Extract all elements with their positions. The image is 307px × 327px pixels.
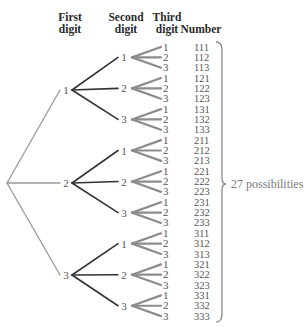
number-313: 313 <box>194 249 210 260</box>
brace: 27 possibilities <box>216 42 304 322</box>
branch-root-1 <box>7 90 60 183</box>
number-212: 212 <box>194 145 210 156</box>
number-311: 311 <box>194 228 209 239</box>
branch-13-1 <box>132 109 161 119</box>
branch-21-3 <box>132 151 161 161</box>
second-digit-21: 1 <box>121 145 127 157</box>
number-column: 1111121131211221231311321332112122132212… <box>194 42 210 322</box>
number-233: 233 <box>194 217 210 228</box>
branch-31-3 <box>132 244 161 254</box>
number-133: 133 <box>194 124 210 135</box>
number-221: 221 <box>194 166 210 177</box>
number-331: 331 <box>194 290 210 301</box>
branch-32-1 <box>132 264 161 274</box>
number-122: 122 <box>194 83 210 94</box>
branch-32-3 <box>132 275 161 285</box>
number-321: 321 <box>194 259 210 270</box>
branch-33-1 <box>132 295 161 305</box>
branch-12-3 <box>132 88 161 98</box>
branch-3-1 <box>72 244 118 275</box>
branch-11-3 <box>132 57 161 67</box>
number-323: 323 <box>194 280 210 291</box>
branch-2-3 <box>72 183 118 213</box>
summary-label: 27 possibilities <box>231 177 304 191</box>
level1-branches <box>7 90 60 275</box>
branch-23-1 <box>132 202 161 212</box>
right-brace <box>216 42 226 322</box>
second-digit-32: 2 <box>121 269 127 281</box>
number-121: 121 <box>194 73 210 84</box>
number-332: 332 <box>194 300 210 311</box>
number-222: 222 <box>194 176 210 187</box>
branch-22-1 <box>132 171 161 181</box>
number-112: 112 <box>194 52 209 63</box>
first-digit-2: 2 <box>63 177 69 189</box>
second-digit-11: 1 <box>121 51 127 63</box>
branch-12-1 <box>132 78 161 88</box>
number-123: 123 <box>194 93 210 104</box>
first-digit-1: 1 <box>63 84 69 96</box>
branch-11-1 <box>132 47 161 57</box>
number-231: 231 <box>194 197 210 208</box>
number-131: 131 <box>194 104 210 115</box>
branch-13-3 <box>132 119 161 129</box>
branch-root-3 <box>7 183 60 275</box>
second-digit-12: 2 <box>121 82 127 94</box>
branch-2-2 <box>72 182 118 183</box>
branch-22-3 <box>132 182 161 192</box>
third-digit-333: 3 <box>163 310 169 322</box>
second-digit-31: 1 <box>121 238 127 250</box>
number-211: 211 <box>194 135 209 146</box>
number-232: 232 <box>194 207 210 218</box>
number-111: 111 <box>194 42 209 53</box>
branch-1-1 <box>72 57 118 90</box>
branch-33-3 <box>132 306 161 316</box>
level3-branches <box>132 47 161 316</box>
first-digit-3: 3 <box>63 269 69 281</box>
number-322: 322 <box>194 269 210 280</box>
number-113: 113 <box>194 62 209 73</box>
number-333: 333 <box>194 311 210 322</box>
second-digit-13: 3 <box>121 113 127 125</box>
branch-3-3 <box>72 275 118 306</box>
second-digit-22: 2 <box>121 176 127 188</box>
level2-branches <box>72 57 118 305</box>
number-213: 213 <box>194 155 210 166</box>
branch-31-1 <box>132 233 161 243</box>
branch-2-1 <box>72 151 118 184</box>
branch-21-1 <box>132 140 161 150</box>
number-223: 223 <box>194 186 210 197</box>
tree-diagram: 111232123312321123212331233112321233123 … <box>0 0 307 327</box>
second-digit-33: 3 <box>121 300 127 312</box>
branch-23-3 <box>132 213 161 223</box>
number-132: 132 <box>194 114 210 125</box>
branch-1-2 <box>72 88 118 90</box>
number-312: 312 <box>194 238 210 249</box>
branch-1-3 <box>72 90 118 119</box>
second-digit-23: 3 <box>121 207 127 219</box>
